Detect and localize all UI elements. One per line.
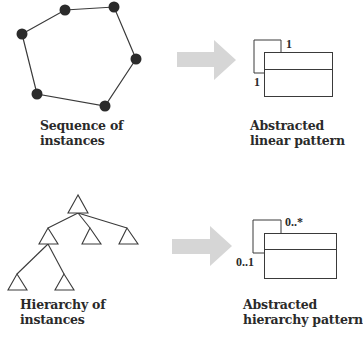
- caption-linear-pattern: Abstracted linear pattern: [250, 118, 345, 148]
- caption-sequence: Sequence of instances: [40, 118, 123, 148]
- caption-line: linear pattern: [250, 133, 345, 148]
- caption-line: Abstracted: [243, 297, 363, 312]
- triangle-node-child-3: [119, 228, 138, 244]
- multiplicity-bottom: 0..1: [236, 255, 254, 269]
- sequence-graph: [17, 2, 142, 112]
- tree-edge: [17, 244, 48, 274]
- triangle-node-grandchild-2: [55, 274, 74, 290]
- instance-node-1: [17, 29, 28, 40]
- multiplicity-top: 0..*: [285, 215, 303, 229]
- triangle-node-child-2: [82, 228, 101, 244]
- tree-edge: [48, 244, 64, 274]
- caption-line: Sequence of: [40, 118, 123, 133]
- caption-line: hierarchy pattern: [243, 312, 363, 327]
- transform-arrow-icon: [177, 40, 236, 80]
- triangle-node-child-1: [39, 228, 58, 244]
- caption-line: Hierarchy of: [20, 297, 105, 312]
- linear-pattern-class: [254, 40, 333, 97]
- instance-node-2: [60, 5, 71, 16]
- triangle-node-root: [68, 195, 88, 213]
- caption-line: Abstracted: [250, 118, 345, 133]
- triangle-node-grandchild-1: [8, 274, 27, 290]
- caption-line: instances: [40, 133, 123, 148]
- multiplicity-bottom: 1: [254, 75, 260, 89]
- transform-arrow-icon: [172, 226, 232, 266]
- class-box: [265, 234, 337, 279]
- instance-node-3: [109, 2, 120, 13]
- caption-line: instances: [20, 312, 105, 327]
- instance-node-5: [100, 101, 111, 112]
- hierarchy-tree: [8, 195, 138, 290]
- self-association-loop: [254, 40, 281, 73]
- tree-edge: [48, 213, 78, 228]
- instance-node-6: [32, 89, 43, 100]
- tree-edge: [78, 213, 127, 228]
- caption-hierarchy-pattern: Abstracted hierarchy pattern: [243, 297, 363, 327]
- self-association-loop: [253, 220, 281, 253]
- caption-hierarchy: Hierarchy of instances: [20, 297, 105, 327]
- multiplicity-top: 1: [286, 37, 292, 51]
- class-box: [265, 53, 333, 97]
- instance-node-4: [131, 54, 142, 65]
